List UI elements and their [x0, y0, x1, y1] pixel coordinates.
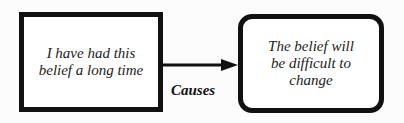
- effect-text: The belief will be difficult to change: [268, 38, 354, 89]
- cause-box: I have had this belief a long time: [19, 12, 163, 112]
- effect-text-line: The belief will: [268, 38, 354, 55]
- effect-text-line: change: [268, 72, 354, 89]
- cause-text: I have had this belief a long time: [39, 45, 144, 79]
- edge-label: Causes: [171, 82, 215, 99]
- arrow-icon: [163, 58, 239, 72]
- cause-text-line: I have had this: [39, 45, 144, 62]
- effect-box: The belief will be difficult to change: [238, 14, 384, 113]
- cause-text-line: belief a long time: [39, 62, 144, 79]
- effect-text-line: be difficult to: [268, 55, 354, 72]
